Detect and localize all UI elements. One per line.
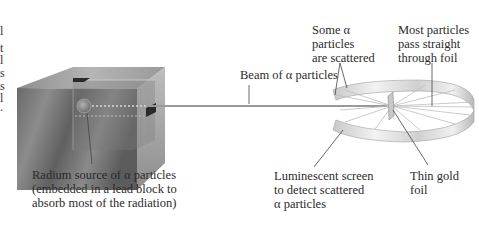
- label-gold-foil: Thin gold foil: [410, 169, 459, 197]
- label-radium-source: Radium source of α particles (embedded i…: [32, 168, 177, 210]
- label-beam: Beam of α particles: [240, 68, 338, 82]
- label-luminescent-screen: Luminescent screen to detect scattered α…: [274, 169, 374, 211]
- label-most-pass: Most particles pass straight through foi…: [398, 23, 469, 65]
- label-some-scattered: Some α particles are scattered: [312, 23, 375, 65]
- gold-foil: [388, 92, 394, 120]
